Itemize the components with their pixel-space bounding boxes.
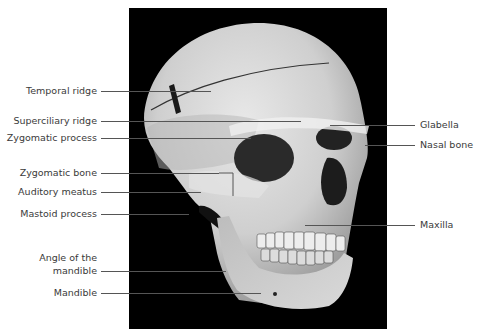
label-angle-of-mandible-line2: mandible — [53, 265, 97, 276]
label-zygomatic-bone: Zygomatic bone — [20, 167, 97, 178]
leader-mastoid-process — [101, 214, 189, 215]
leader-angle-of-mandible — [101, 271, 226, 272]
leader-zygomatic-process — [101, 138, 251, 139]
label-glabella: Glabella — [420, 119, 459, 130]
leader-auditory-meatus — [101, 192, 201, 193]
skull-photo — [129, 8, 387, 329]
leader-mandible — [101, 293, 261, 294]
label-auditory-meatus: Auditory meatus — [18, 186, 97, 197]
label-mastoid-process: Mastoid process — [20, 208, 97, 219]
leader-nasal-bone — [365, 145, 415, 146]
leader-zygomatic-bone — [101, 173, 219, 174]
label-mandible: Mandible — [54, 287, 97, 298]
label-superciliary-ridge: Superciliary ridge — [13, 115, 97, 126]
leader-maxilla — [305, 225, 415, 226]
label-angle-of-mandible-line1: Angle of the — [39, 252, 97, 263]
skull-illustration — [129, 8, 387, 329]
label-nasal-bone: Nasal bone — [420, 139, 473, 150]
leader-temporal-ridge — [101, 91, 211, 92]
leader-superciliary-ridge — [101, 121, 301, 122]
label-maxilla: Maxilla — [420, 219, 453, 230]
label-temporal-ridge: Temporal ridge — [26, 85, 97, 96]
label-zygomatic-process: Zygomatic process — [7, 132, 97, 143]
leader-glabella — [330, 125, 415, 126]
